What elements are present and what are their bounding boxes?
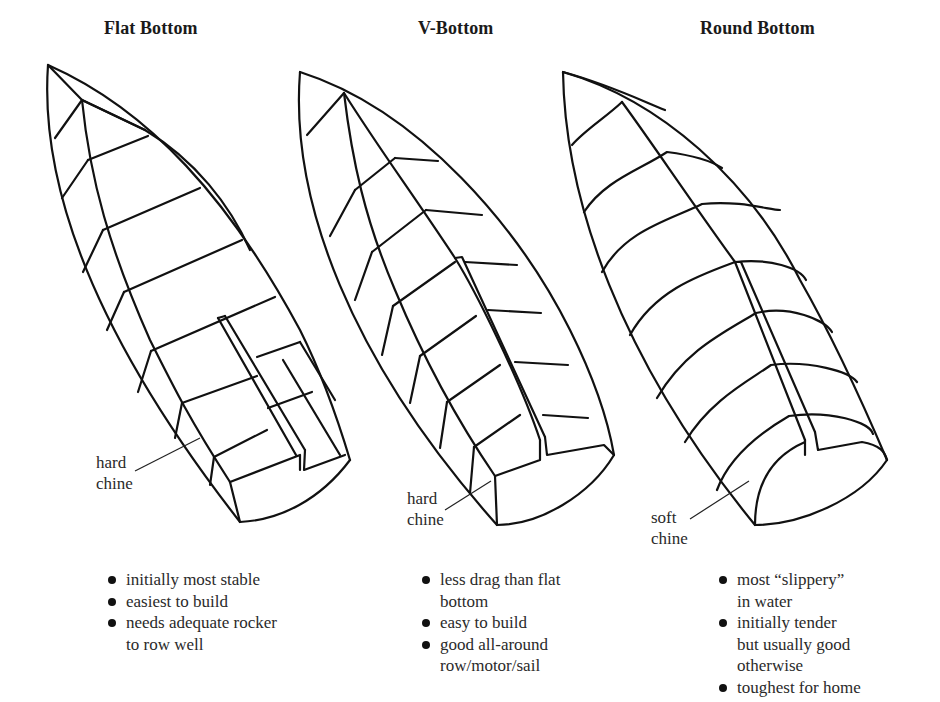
note-text: but usually good <box>737 634 937 656</box>
note-text: easy to build <box>440 612 650 634</box>
note-text: toughest for home <box>737 677 937 699</box>
note-text: most “slippery” <box>737 569 937 591</box>
flat-bottom-hull-drawing <box>47 65 350 522</box>
chine-label-line: hard <box>407 488 444 509</box>
note-text: row/motor/sail <box>440 655 650 677</box>
chine-label-line: soft <box>651 507 688 528</box>
note-text: in water <box>737 591 937 613</box>
v-bottom-notes: less drag than flatbottom easy to build … <box>420 569 650 677</box>
note-text: less drag than flat <box>440 569 650 591</box>
note-text: initially tender <box>737 612 937 634</box>
note-text: easiest to build <box>126 591 366 613</box>
v-chine-leader-line <box>445 481 491 510</box>
list-item: initially tenderbut usually goodotherwis… <box>717 612 937 677</box>
list-item: less drag than flatbottom <box>420 569 650 612</box>
list-item: easiest to build <box>106 591 366 613</box>
list-item: initially most stable <box>106 569 366 591</box>
note-text: good all-around <box>440 634 650 656</box>
list-item: easy to build <box>420 612 650 634</box>
round-chine-leader-line <box>690 481 749 519</box>
chine-label-line: hard <box>96 452 133 473</box>
v-bottom-hull-drawing <box>299 72 614 525</box>
note-text: to row well <box>126 634 366 656</box>
chine-label-line: chine <box>96 473 133 494</box>
note-text: bottom <box>440 591 650 613</box>
round-bottom-chine-label: soft chine <box>651 507 688 549</box>
list-item: toughest for home <box>717 677 937 699</box>
note-text: needs adequate rocker <box>126 612 366 634</box>
chine-label-line: chine <box>651 528 688 549</box>
chine-label-line: chine <box>407 509 444 530</box>
list-item: good all-aroundrow/motor/sail <box>420 634 650 677</box>
v-bottom-chine-label: hard chine <box>407 488 444 530</box>
round-bottom-notes: most “slippery”in water initially tender… <box>717 569 937 698</box>
flat-bottom-notes: initially most stable easiest to build n… <box>106 569 366 655</box>
list-item: needs adequate rockerto row well <box>106 612 366 655</box>
note-text: otherwise <box>737 655 937 677</box>
flat-bottom-chine-label: hard chine <box>96 452 133 494</box>
list-item: most “slippery”in water <box>717 569 937 612</box>
note-text: initially most stable <box>126 569 366 591</box>
